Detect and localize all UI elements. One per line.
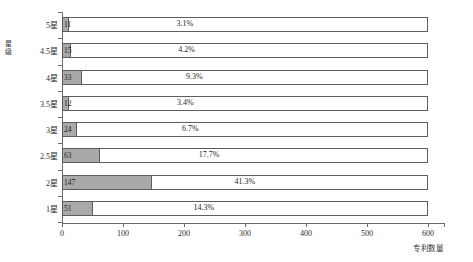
bar-row: 5星113.1% [62, 12, 428, 38]
bar-track [62, 43, 428, 58]
bar-row: 4星339.3% [62, 65, 428, 91]
bar-value-label: 24 [64, 125, 72, 134]
category-label: 5星 [46, 19, 58, 30]
bar-percent-label: 14.3% [194, 203, 215, 212]
bar-percent-label: 41.3% [235, 177, 256, 186]
bar-value-label: 147 [64, 178, 75, 187]
bar-row: 2.5星6317.7% [62, 143, 428, 169]
plot-area: 5星113.1%4.5星154.2%4星339.3%3.5星123.4%3星24… [62, 12, 428, 222]
x-axis-tick [123, 223, 124, 227]
bar-row: 3.5星123.4% [62, 91, 428, 117]
y-axis-title: 星级 [2, 40, 14, 56]
x-axis-tick-label: 500 [361, 229, 373, 238]
x-axis-title: 专利数量 [413, 242, 443, 253]
x-axis-tick [184, 223, 185, 227]
x-axis-tick [428, 223, 429, 227]
bar-row: 4.5星154.2% [62, 38, 428, 64]
bar-row: 1星5114.3% [62, 196, 428, 222]
category-label: 1星 [46, 203, 58, 214]
bar-percent-label: 3.1% [176, 19, 193, 28]
bar-track [62, 96, 428, 111]
category-label: 4星 [46, 72, 58, 83]
category-label: 4.5星 [40, 45, 58, 56]
bar-track [62, 148, 428, 163]
bar [62, 175, 152, 190]
x-axis-end-tick [444, 223, 445, 227]
x-axis-tick-label: 0 [60, 229, 64, 238]
horizontal-bar-chart: 星级 5星113.1%4.5星154.2%4星339.3%3.5星123.4%3… [0, 0, 473, 262]
bar-percent-label: 17.7% [199, 150, 220, 159]
y-axis-tick [58, 65, 62, 66]
bar-value-label: 15 [64, 46, 72, 55]
bar-percent-label: 4.2% [178, 45, 195, 54]
y-axis-tick [58, 117, 62, 118]
bar-track [62, 201, 428, 216]
bar-percent-label: 6.7% [182, 124, 199, 133]
bar-percent-label: 3.4% [177, 98, 194, 107]
bar-percent-label: 9.3% [186, 72, 203, 81]
x-axis-tick [245, 223, 246, 227]
category-label: 2.5星 [40, 150, 58, 161]
category-label: 3.5星 [40, 98, 58, 109]
bar-value-label: 12 [64, 99, 72, 108]
x-axis-tick [62, 223, 63, 227]
bar-track [62, 70, 428, 85]
bar-value-label: 33 [64, 73, 72, 82]
x-axis-tick-label: 600 [422, 229, 434, 238]
bar-row: 3星246.7% [62, 117, 428, 143]
x-axis-tick-label: 100 [117, 229, 129, 238]
y-axis-tick [58, 143, 62, 144]
bar-row: 2星14741.3% [62, 170, 428, 196]
y-axis-tick [58, 196, 62, 197]
x-axis-tick [306, 223, 307, 227]
x-axis-tick [367, 223, 368, 227]
category-label: 2星 [46, 177, 58, 188]
category-label: 3星 [46, 124, 58, 135]
bar-value-label: 63 [64, 151, 72, 160]
x-axis-tick-label: 400 [300, 229, 312, 238]
bar-track [62, 122, 428, 137]
x-axis-line [62, 223, 444, 224]
bar-value-label: 51 [64, 204, 72, 213]
bar-track [62, 17, 428, 32]
y-axis-tick [58, 170, 62, 171]
y-axis-tick [58, 38, 62, 39]
x-axis-tick-label: 300 [239, 229, 251, 238]
x-axis-tick-label: 200 [178, 229, 190, 238]
y-axis-tick [58, 91, 62, 92]
bar-value-label: 11 [64, 20, 71, 29]
y-axis-tick [58, 12, 62, 13]
